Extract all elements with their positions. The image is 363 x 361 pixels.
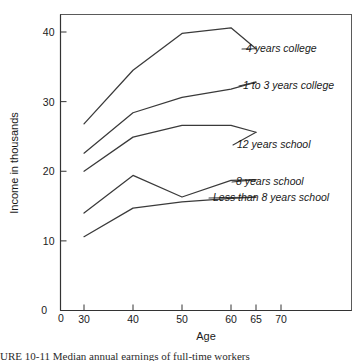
- series-label-2: 12 years school: [237, 138, 311, 150]
- x-tick-label-40: 40: [127, 313, 139, 325]
- series-label-3: 8 years school: [236, 175, 304, 187]
- plot-frame: [61, 15, 352, 311]
- x-axis-origin-label: 0: [58, 312, 64, 324]
- series-labels-group: 4 years college1 to 3 years college12 ye…: [213, 42, 334, 203]
- x-axis-tick-labels: 304050606570: [78, 313, 287, 325]
- y-tick-label-20: 20: [43, 165, 55, 177]
- x-tick-label-30: 30: [78, 313, 90, 325]
- y-tick-label-30: 30: [43, 96, 55, 108]
- series-line-1: [84, 82, 256, 153]
- y-axis-ticks: [61, 32, 67, 241]
- x-tick-label-50: 50: [176, 313, 188, 325]
- series-lines-group: [84, 28, 256, 237]
- x-axis-title: Age: [196, 330, 216, 342]
- y-axis-origin-label: 0: [41, 304, 47, 316]
- series-label-1: 1 to 3 years college: [243, 79, 334, 91]
- x-tick-label-65: 65: [250, 313, 262, 325]
- series-line-0: [84, 28, 256, 124]
- x-tick-label-70: 70: [275, 313, 287, 325]
- series-label-4: Less than 8 years school: [213, 191, 330, 203]
- x-tick-label-60: 60: [225, 313, 237, 325]
- x-axis-ticks: [84, 305, 281, 311]
- y-tick-label-40: 40: [43, 26, 55, 38]
- y-tick-label-10: 10: [43, 235, 55, 247]
- figure-container: 10203040 304050606570 0 0 4 years colleg…: [0, 0, 363, 361]
- y-axis-tick-labels: 10203040: [43, 26, 55, 247]
- series-label-0: 4 years college: [246, 42, 317, 54]
- y-axis-title: Income in thousands: [8, 112, 20, 214]
- line-chart: 10203040 304050606570 0 0 4 years colleg…: [0, 0, 363, 361]
- figure-caption: URE 10-11 Median annual earnings of full…: [0, 350, 363, 361]
